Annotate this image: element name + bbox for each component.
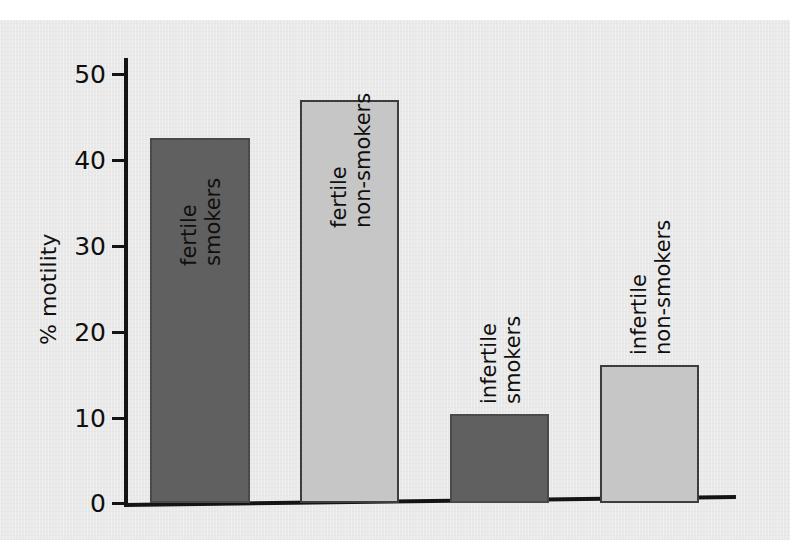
y-tick-label-10: 10 (68, 406, 106, 431)
bar-infertile-smokers[interactable] (450, 414, 549, 503)
y-tick-30 (112, 245, 126, 248)
bar-label-infertile-non-smokers: infertile non-smokers (628, 220, 675, 355)
bar-label-line-1: infertile (628, 220, 652, 355)
chart-page: 50 40 30 20 10 0 % motility fertile smok… (0, 0, 790, 540)
y-tick-label-30: 30 (68, 234, 106, 259)
y-axis-line (124, 58, 128, 505)
y-axis-title: % motility (38, 234, 60, 345)
bar-fertile-smokers[interactable] (150, 138, 250, 503)
y-tick-40 (112, 159, 126, 162)
bar-label-line-1: infertile (478, 315, 502, 403)
y-tick-10 (112, 417, 126, 420)
bar-infertile-non-smokers[interactable] (600, 365, 699, 503)
y-tick-label-50: 50 (68, 62, 106, 87)
bar-label-line-2: non-smokers (652, 220, 676, 355)
bar-fertile-non-smokers[interactable] (300, 100, 399, 503)
y-tick-label-20: 20 (68, 320, 106, 345)
y-tick-20 (112, 331, 126, 334)
bar-label-infertile-smokers: infertile smokers (478, 315, 525, 403)
y-tick-0 (112, 502, 126, 505)
bar-label-line-2: smokers (502, 315, 526, 403)
y-tick-50 (112, 73, 126, 76)
y-tick-label-40: 40 (68, 148, 106, 173)
y-tick-label-0: 0 (68, 491, 106, 516)
bar-chart-plot: 50 40 30 20 10 0 % motility fertile smok… (0, 0, 790, 540)
